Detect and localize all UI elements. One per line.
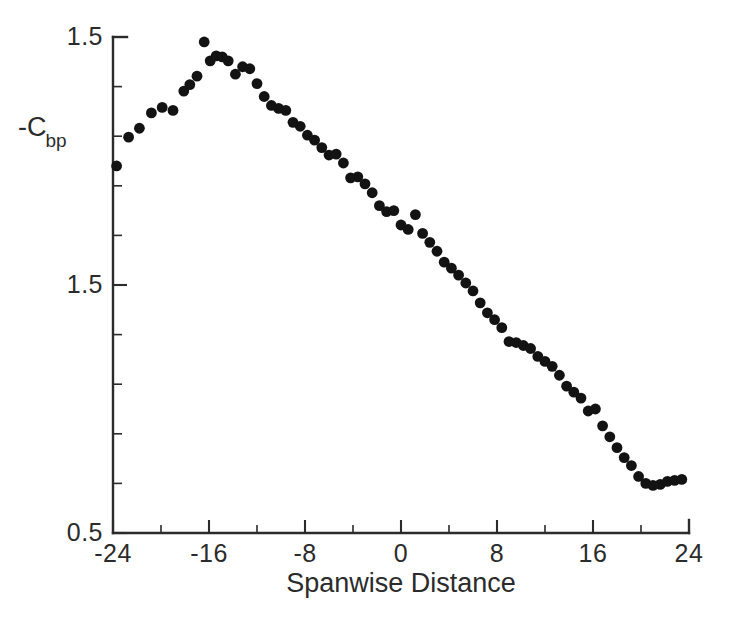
data-point — [331, 149, 342, 160]
x-tick-label: 24 — [649, 539, 729, 568]
data-point — [184, 79, 195, 90]
data-point — [547, 361, 558, 372]
data-point — [360, 178, 371, 189]
data-point — [295, 121, 306, 132]
x-axis-title: Spanwise Distance — [113, 568, 689, 599]
y-axis-title: -Cbp — [18, 112, 68, 147]
data-point — [338, 158, 349, 169]
data-point — [554, 370, 565, 381]
data-point — [244, 63, 255, 74]
y-tick-label: 1.5 — [8, 270, 103, 299]
data-point-group — [111, 37, 687, 491]
y-axis-title-main: -C — [18, 112, 47, 142]
x-tick-label: 0 — [361, 539, 441, 568]
chart-figure: 0.51.51.5 -24-16-8081624 -Cbp Spanwise D… — [0, 0, 731, 622]
data-point — [626, 460, 637, 471]
data-point — [252, 78, 263, 89]
x-axis-ticks — [113, 520, 641, 533]
data-point — [223, 55, 234, 66]
data-point — [590, 404, 601, 415]
data-point — [475, 297, 486, 308]
data-point — [424, 237, 435, 248]
x-tick-label: -16 — [169, 539, 249, 568]
data-point — [134, 123, 145, 134]
x-tick-label: -8 — [265, 539, 345, 568]
x-tick-label: -24 — [73, 539, 153, 568]
data-point — [676, 474, 687, 485]
x-tick-label: 8 — [457, 539, 537, 568]
y-axis-ticks — [113, 87, 127, 533]
data-point — [168, 105, 179, 116]
y-axis-title-subscript: bp — [46, 130, 67, 151]
data-point — [612, 442, 623, 453]
data-point — [259, 91, 270, 102]
scatter-plot-canvas — [0, 0, 731, 622]
y-tick-label: 1.5 — [8, 22, 103, 51]
data-point — [146, 107, 157, 118]
data-point — [157, 102, 168, 113]
data-point — [111, 161, 122, 172]
data-point — [604, 431, 615, 442]
data-point — [388, 205, 399, 216]
data-point — [432, 246, 443, 257]
data-point — [280, 105, 291, 116]
data-point — [403, 224, 414, 235]
data-point — [417, 228, 428, 239]
data-point — [199, 37, 210, 48]
data-point — [576, 393, 587, 404]
data-point — [410, 209, 421, 220]
data-point — [192, 71, 203, 82]
data-point — [123, 132, 134, 143]
data-point — [597, 420, 608, 431]
data-point — [496, 322, 507, 333]
data-point — [468, 286, 479, 297]
data-point — [367, 187, 378, 198]
x-tick-label: 16 — [553, 539, 633, 568]
axis-frame — [113, 37, 689, 533]
